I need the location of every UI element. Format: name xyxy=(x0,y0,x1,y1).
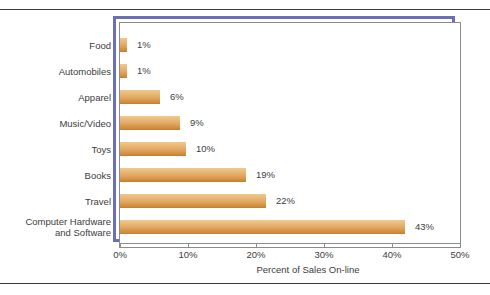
bar-toys[interactable] xyxy=(120,142,186,156)
x-tick-label-40: 40% xyxy=(382,249,401,260)
bar-food[interactable] xyxy=(120,38,127,52)
x-tick-40 xyxy=(392,243,393,247)
value-label-toys: 10% xyxy=(196,143,215,154)
value-label-books: 19% xyxy=(256,169,275,180)
value-label-music-video: 9% xyxy=(190,117,204,128)
x-tick-0 xyxy=(120,243,121,247)
x-tick-20 xyxy=(256,243,257,247)
bar-travel[interactable] xyxy=(120,194,266,208)
category-label-food: Food xyxy=(89,40,111,51)
x-tick-50 xyxy=(460,243,461,247)
value-label-automobiles: 1% xyxy=(137,65,151,76)
category-axis-labels: Food Automobiles Apparel Music/Video Toy… xyxy=(0,22,119,244)
x-axis-title-text: Percent of Sales On-line xyxy=(257,264,360,275)
category-label-books: Books xyxy=(85,170,111,181)
category-label-music-video: Music/Video xyxy=(59,118,111,129)
value-label-food: 1% xyxy=(137,39,151,50)
category-label-computer-hardware-and-software: Computer Hardware and Software xyxy=(25,216,111,238)
bar-series: 1% 1% 6% 9% 10% 19% 22% 43% xyxy=(120,22,461,244)
bar-music-video[interactable] xyxy=(120,116,180,130)
value-label-computer-hardware-and-software: 43% xyxy=(415,221,434,232)
value-label-travel: 22% xyxy=(276,195,295,206)
x-tick-10 xyxy=(188,243,189,247)
category-label-apparel: Apparel xyxy=(78,92,111,103)
bar-apparel[interactable] xyxy=(120,90,160,104)
x-axis-title: Percent of Sales On-line xyxy=(0,264,490,275)
x-tick-label-0: 0% xyxy=(113,249,127,260)
bar-automobiles[interactable] xyxy=(120,64,127,78)
x-tick-label-20: 20% xyxy=(246,249,265,260)
bar-books[interactable] xyxy=(120,168,246,182)
x-tick-label-10: 10% xyxy=(178,249,197,260)
value-label-apparel: 6% xyxy=(170,91,184,102)
bar-chart: Food Automobiles Apparel Music/Video Toy… xyxy=(0,0,490,295)
x-tick-label-50: 50% xyxy=(450,249,469,260)
bar-computer-hardware-and-software[interactable] xyxy=(120,220,405,234)
category-label-toys: Toys xyxy=(91,144,111,155)
category-label-travel: Travel xyxy=(85,196,111,207)
x-tick-label-30: 30% xyxy=(314,249,333,260)
category-label-automobiles: Automobiles xyxy=(59,66,111,77)
x-tick-30 xyxy=(324,243,325,247)
x-axis-line xyxy=(120,243,461,244)
